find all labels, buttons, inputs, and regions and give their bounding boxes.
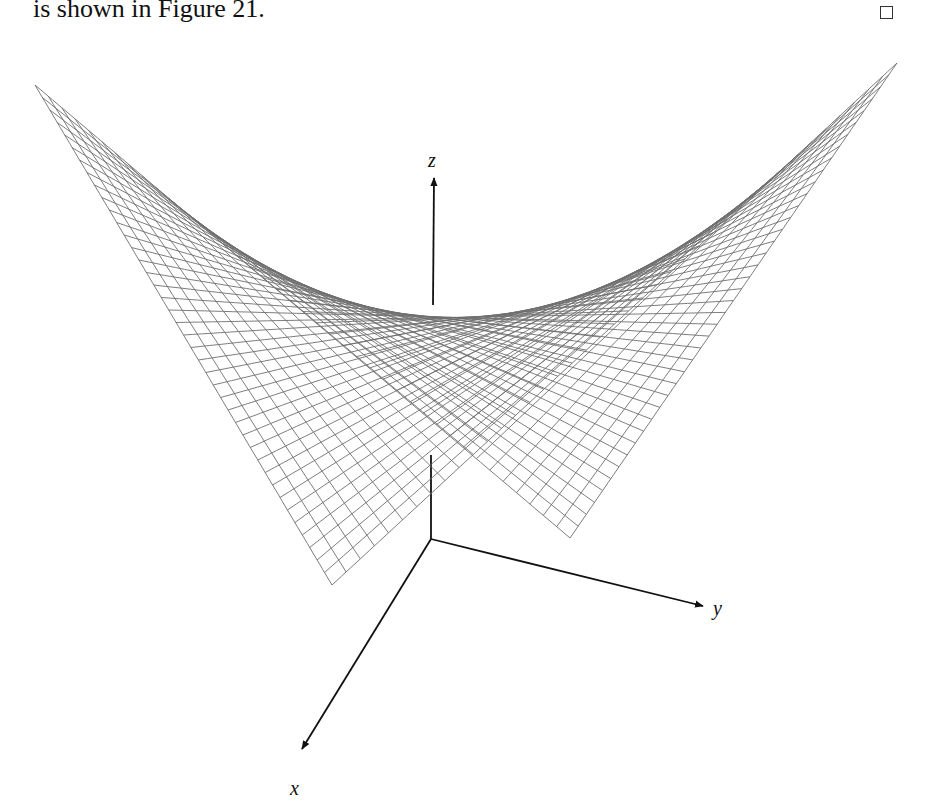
x-axis-label: x <box>290 778 299 798</box>
mesh-line <box>302 111 864 536</box>
figure-saddle-surface <box>0 0 928 810</box>
y-axis <box>431 539 703 606</box>
axes-front <box>302 178 703 749</box>
z-axis-label: z <box>428 150 436 170</box>
mesh-line <box>287 134 848 510</box>
mesh-line <box>317 87 881 560</box>
mesh-line <box>543 89 869 515</box>
z-axis-upper <box>433 178 434 305</box>
y-axis-label: y <box>713 598 722 618</box>
x-axis <box>302 539 431 749</box>
surface-mesh <box>35 63 897 585</box>
